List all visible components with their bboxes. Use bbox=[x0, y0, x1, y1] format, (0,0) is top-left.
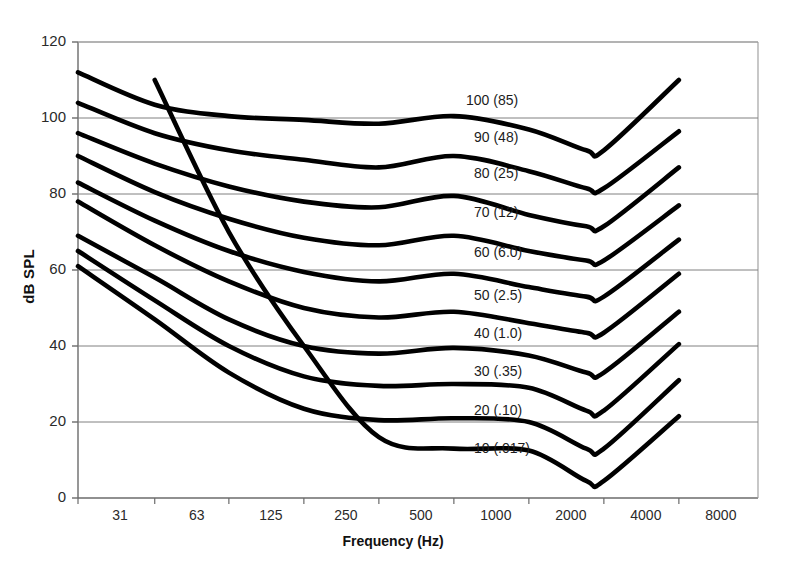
curve-label: 100 (85) bbox=[466, 92, 518, 108]
y-tick-label: 60 bbox=[20, 260, 66, 277]
curve-label: 80 (25) bbox=[474, 165, 518, 181]
x-tick-label: 31 bbox=[85, 507, 155, 523]
x-tick-label: 250 bbox=[311, 507, 381, 523]
x-tick-label: 500 bbox=[386, 507, 456, 523]
curve-label: 10 (.017) bbox=[474, 440, 530, 456]
curve-label: 50 (2.5) bbox=[474, 287, 522, 303]
curve-label: 40 (1.0) bbox=[474, 325, 522, 341]
y-tick-label: 80 bbox=[20, 184, 66, 201]
y-tick-label: 100 bbox=[20, 108, 66, 125]
curve-label: 90 (48) bbox=[474, 129, 518, 145]
x-tick-marks bbox=[78, 498, 679, 504]
x-tick-label: 8000 bbox=[686, 507, 756, 523]
x-axis-title: Frequency (Hz) bbox=[0, 533, 786, 549]
plot-svg bbox=[0, 0, 786, 579]
x-tick-label: 4000 bbox=[611, 507, 681, 523]
x-tick-label: 63 bbox=[162, 507, 232, 523]
curve-label: 20 (.10) bbox=[474, 402, 522, 418]
x-tick-label: 2000 bbox=[536, 507, 606, 523]
x-tick-label: 125 bbox=[236, 507, 306, 523]
curve-label: 60 (6.0) bbox=[474, 244, 522, 260]
curve-label: 30 (.35) bbox=[474, 363, 522, 379]
curve-label: 70 (12) bbox=[474, 204, 518, 220]
y-tick-label: 0 bbox=[20, 488, 66, 505]
y-tick-label: 120 bbox=[20, 32, 66, 49]
x-tick-label: 1000 bbox=[461, 507, 531, 523]
y-tick-label: 20 bbox=[20, 412, 66, 429]
y-tick-marks bbox=[72, 42, 78, 498]
equal-loudness-contour-chart: dB SPL Frequency (Hz) 020406080100120 31… bbox=[0, 0, 786, 579]
y-tick-label: 40 bbox=[20, 336, 66, 353]
